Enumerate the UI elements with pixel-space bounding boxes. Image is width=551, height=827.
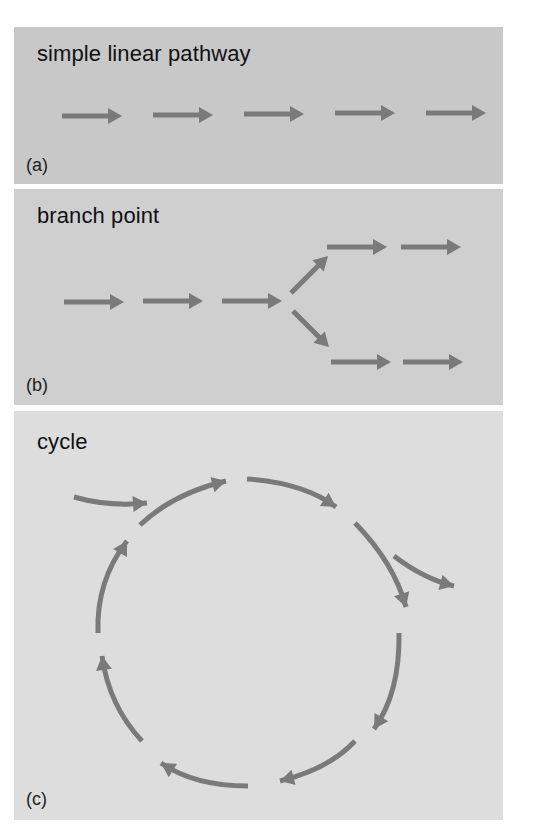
arrow-icon xyxy=(403,354,463,370)
arrow-icon xyxy=(367,633,399,733)
arrowhead-icon xyxy=(367,713,388,733)
arrow-icon xyxy=(94,655,142,741)
panel-cycle: cycle (c) xyxy=(14,411,503,820)
arrowhead-icon xyxy=(132,495,147,512)
arrow-icon xyxy=(293,311,335,353)
arrowhead-icon xyxy=(189,293,203,309)
cycle-arrows xyxy=(14,411,503,820)
arrow-icon xyxy=(278,741,355,789)
arrow-icon xyxy=(153,107,213,123)
arrowhead-icon xyxy=(449,354,463,370)
arrow-icon xyxy=(401,239,461,255)
arrowhead-icon xyxy=(447,239,461,255)
arrow-icon xyxy=(335,105,395,121)
arrowhead-icon xyxy=(381,105,395,121)
arrow-icon xyxy=(247,479,340,514)
arrowhead-icon xyxy=(268,293,282,309)
arrowhead-icon xyxy=(377,354,391,370)
arrow-icon xyxy=(64,294,124,310)
arrow-icon xyxy=(140,473,228,525)
arrow-icon xyxy=(426,105,486,121)
arrowhead-icon xyxy=(94,655,112,671)
arrowhead-icon xyxy=(157,756,177,777)
arrowhead-icon xyxy=(373,239,387,255)
arrowhead-icon xyxy=(290,106,304,122)
arrow-icon xyxy=(62,108,122,124)
arrowhead-icon xyxy=(199,107,213,123)
panel-label: (b) xyxy=(26,375,48,396)
arrow-icon xyxy=(291,250,334,293)
panel-label: (a) xyxy=(26,155,48,176)
arrow-icon xyxy=(74,495,148,512)
arrow-icon xyxy=(143,293,203,309)
arrowhead-icon xyxy=(108,108,122,124)
linear-pathway-arrows xyxy=(14,27,503,184)
panel-simple-linear-pathway: simple linear pathway (a) xyxy=(14,27,503,184)
arrow-icon xyxy=(327,239,387,255)
panel-branch-point: branch point (b) xyxy=(14,189,503,405)
arrow-icon xyxy=(331,354,391,370)
arrow-icon xyxy=(157,756,248,786)
branch-point-arrows xyxy=(14,189,503,405)
arrowhead-icon xyxy=(472,105,486,121)
panel-label: (c) xyxy=(26,789,47,810)
arrow-icon xyxy=(394,556,456,594)
arrowhead-icon xyxy=(110,294,124,310)
arrow-icon xyxy=(222,293,282,309)
arrow-icon xyxy=(244,106,304,122)
arrow-icon xyxy=(98,537,134,633)
